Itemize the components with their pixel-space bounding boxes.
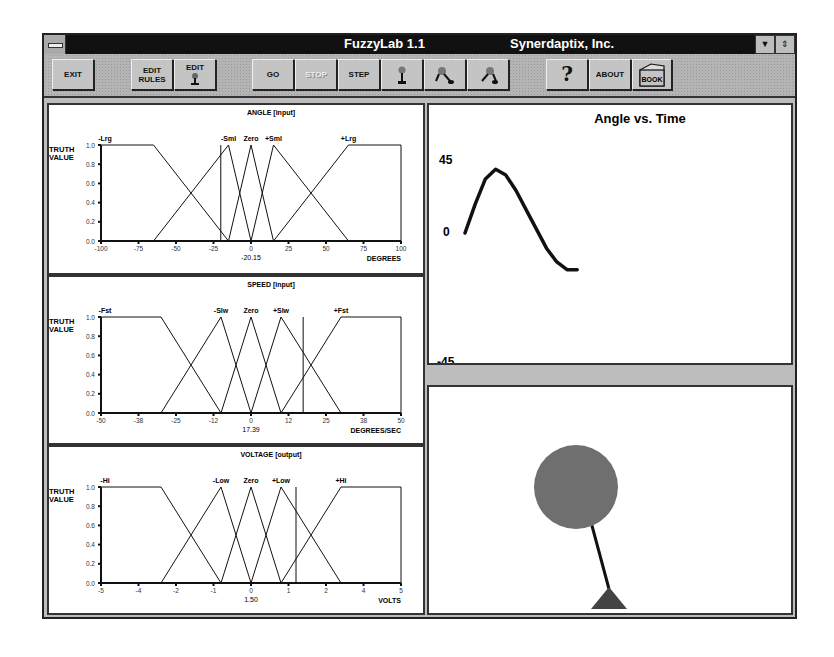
chart-title: ANGLE [input]	[247, 109, 295, 117]
voltage-membership-chart: VOLTAGE [output]TRUTHVALUE0.00.20.40.60.…	[47, 445, 425, 615]
system-menu-icon	[48, 43, 63, 48]
x-axis-label: VOLTS	[378, 597, 401, 604]
chart-title: SPEED [input]	[247, 281, 294, 289]
set-label: +Hi	[335, 477, 346, 484]
svg-text:0.4: 0.4	[86, 371, 95, 378]
system-menu-button[interactable]	[44, 35, 66, 54]
membership-function	[281, 487, 401, 583]
angle-trace	[465, 169, 577, 269]
step-button[interactable]: STEP	[338, 59, 380, 90]
stop-button[interactable]: STOP	[295, 59, 337, 90]
svg-text:-12: -12	[209, 417, 219, 424]
svg-text:1.0: 1.0	[86, 142, 95, 149]
set-label: -Hi	[100, 477, 109, 484]
svg-text:0.8: 0.8	[86, 161, 95, 168]
help-button[interactable]: ?	[546, 59, 588, 90]
x-axis-label: DEGREES/SEC	[350, 427, 401, 434]
fuzzylab-window: FuzzyLab 1.1 Synerdaptix, Inc. ▼ ⇕ EXIT …	[42, 33, 797, 619]
chart-title: VOLTAGE [output]	[240, 451, 301, 459]
svg-text:0.2: 0.2	[86, 390, 95, 397]
svg-text:100: 100	[396, 245, 407, 252]
company-name: Synerdaptix, Inc.	[510, 36, 614, 51]
svg-text:-1: -1	[211, 587, 217, 594]
svg-text:1: 1	[287, 587, 291, 594]
membership-function	[221, 317, 281, 413]
membership-function	[154, 145, 252, 241]
pendulum-rod	[591, 522, 609, 589]
svg-text:4: 4	[362, 587, 366, 594]
set-label: Zero	[243, 477, 258, 484]
pendulum-left-button[interactable]	[424, 59, 466, 90]
svg-text:0.0: 0.0	[86, 580, 95, 587]
set-label: -Sml	[221, 135, 236, 142]
about-button[interactable]: ABOUT	[589, 59, 631, 90]
restore-icon: ⇕	[781, 39, 789, 49]
membership-function	[161, 487, 251, 583]
book-icon: BOOK	[637, 62, 667, 88]
membership-function	[251, 317, 341, 413]
svg-text:50: 50	[322, 245, 330, 252]
membership-plot: VOLTAGE [output]TRUTHVALUE0.00.20.40.60.…	[49, 447, 423, 613]
angle-time-plot: Angle vs. Time450-45	[429, 105, 791, 363]
set-label: -Slw	[214, 307, 229, 314]
title-bar[interactable]: FuzzyLab 1.1 Synerdaptix, Inc. ▼ ⇕	[44, 35, 795, 54]
pendulum-icon	[188, 72, 202, 86]
go-button[interactable]: GO	[252, 59, 294, 90]
svg-text:0.6: 0.6	[86, 522, 95, 529]
book-button[interactable]: BOOK	[632, 59, 672, 90]
svg-text:0: 0	[249, 417, 253, 424]
svg-text:VALUE: VALUE	[49, 495, 74, 504]
membership-function	[101, 487, 221, 583]
pendulum-scene	[429, 387, 791, 613]
svg-text:0.2: 0.2	[86, 218, 95, 225]
x-axis-label: DEGREES	[367, 255, 402, 262]
svg-text:2: 2	[324, 587, 328, 594]
edit-pendulum-button[interactable]: EDIT	[174, 59, 216, 90]
minimize-button[interactable]: ▼	[755, 35, 775, 54]
chart-title: Angle vs. Time	[594, 111, 686, 126]
svg-text:5: 5	[399, 587, 403, 594]
svg-text:1.0: 1.0	[86, 484, 95, 491]
svg-text:-25: -25	[171, 417, 181, 424]
current-value: 1.50	[244, 596, 258, 603]
svg-text:0.4: 0.4	[86, 541, 95, 548]
svg-text:0.6: 0.6	[86, 352, 95, 359]
pendulum-left-icon	[434, 65, 456, 85]
svg-text:VALUE: VALUE	[49, 153, 74, 162]
pendulum-right-button[interactable]	[467, 59, 509, 90]
membership-function	[229, 145, 274, 241]
svg-text:-5: -5	[98, 587, 104, 594]
svg-text:-50: -50	[96, 417, 106, 424]
svg-text:0.2: 0.2	[86, 560, 95, 567]
svg-text:38: 38	[360, 417, 368, 424]
svg-text:0: 0	[249, 245, 253, 252]
svg-text:VALUE: VALUE	[49, 325, 74, 334]
exit-button[interactable]: EXIT	[52, 59, 94, 90]
svg-text:25: 25	[285, 245, 293, 252]
svg-text:50: 50	[397, 417, 405, 424]
restore-button[interactable]: ⇕	[775, 35, 795, 54]
angle-vs-time-chart: Angle vs. Time450-45	[427, 103, 793, 365]
minimize-icon: ▼	[761, 39, 770, 49]
pendulum-upright-button[interactable]	[381, 59, 423, 90]
svg-text:1.0: 1.0	[86, 314, 95, 321]
svg-text:-100: -100	[94, 245, 107, 252]
pendulum-bob	[534, 445, 618, 529]
set-label: +Slw	[273, 307, 290, 314]
membership-plot: SPEED [input]TRUTHVALUE0.00.20.40.60.81.…	[49, 277, 423, 443]
svg-text:0.0: 0.0	[86, 238, 95, 245]
svg-text:25: 25	[322, 417, 330, 424]
current-value: 17.39	[242, 426, 260, 433]
svg-text:0: 0	[249, 587, 253, 594]
current-value: -20.15	[241, 254, 261, 261]
membership-function	[161, 317, 251, 413]
svg-text:-45: -45	[437, 355, 455, 363]
set-label: +Low	[272, 477, 291, 484]
set-label: -Low	[213, 477, 230, 484]
pivot-base	[591, 587, 627, 609]
svg-text:45: 45	[439, 153, 453, 167]
pendulum-right-icon	[477, 65, 499, 85]
set-label: -Lrg	[98, 135, 112, 143]
speed-membership-chart: SPEED [input]TRUTHVALUE0.00.20.40.60.81.…	[47, 275, 425, 445]
edit-rules-button[interactable]: EDIT RULES	[131, 59, 173, 90]
